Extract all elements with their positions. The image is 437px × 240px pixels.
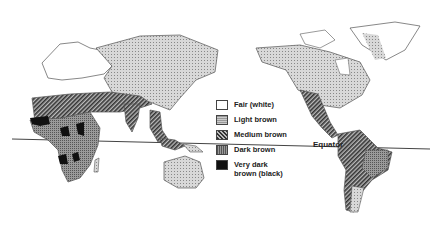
region-madagascar [94, 158, 99, 172]
swatch-very-dark-brown [216, 160, 228, 170]
legend-label: Medium brown [234, 130, 287, 139]
legend-item-very-dark-brown: Very dark brown (black) [216, 160, 356, 180]
legend-item-fair: Fair (white) [216, 100, 356, 114]
legend-label: Light brown [234, 115, 277, 124]
region-greenland [350, 22, 420, 60]
swatch-medium-brown [216, 130, 228, 140]
legend-label: Dark brown [234, 145, 275, 154]
legend-label: Fair (white) [234, 100, 274, 109]
legend-item-light-brown: Light brown [216, 115, 356, 129]
legend-label: Very dark brown (black) [234, 160, 283, 178]
equator-label: Equator [313, 140, 343, 149]
swatch-light-brown [216, 115, 228, 125]
region-southern-cone [350, 186, 364, 212]
region-australia [164, 156, 204, 188]
region-india [124, 104, 140, 132]
swatch-fair [216, 100, 228, 110]
region-southeast-asia [150, 110, 170, 142]
region-arctic-islands [300, 30, 335, 48]
region-indonesia [160, 138, 185, 150]
region-new-guinea [183, 144, 203, 152]
swatch-dark-brown [216, 145, 228, 155]
